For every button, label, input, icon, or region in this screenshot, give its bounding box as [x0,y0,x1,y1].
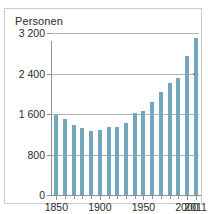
bar [63,119,67,195]
bar [107,127,111,195]
y-tick-mark-800 [47,155,51,156]
x-tick-mark-major-2000 [187,195,188,200]
x-tick-mark [152,195,153,199]
chart-figure: Personen 08001 6002 4003 200 18501900195… [4,8,202,204]
y-tick-mark-3200 [47,33,51,34]
y-tick-mark-1600 [47,114,51,115]
x-tick-mark-major-1900 [100,195,101,200]
x-tick-mark-major-1950 [143,195,144,200]
bar [98,130,102,195]
bar [159,92,163,195]
bar [176,78,180,195]
bar [80,128,84,195]
bar [141,111,145,195]
x-tick-mark-major-1850 [56,195,57,200]
x-tick-mark [126,195,127,199]
bar [89,131,93,195]
y-axis-tick-labels: 08001 6002 4003 200 [5,33,45,195]
y-tick-mark-0 [47,195,51,196]
bar [185,56,189,195]
bar [150,102,154,195]
x-tick-label-2011: 2011 [184,201,207,213]
x-tick-mark [65,195,66,199]
x-tick-mark [178,195,179,199]
bar [168,83,172,195]
y-tick-label-2400: 2 400 [19,68,45,80]
x-tick-mark-major-2011 [196,195,197,200]
y-tick-label-800: 800 [27,149,45,161]
x-tick-mark [74,195,75,199]
bar [194,38,198,195]
annotation-dot [193,73,195,75]
x-tick-label-1950: 1950 [132,201,155,213]
x-tick-mark [91,195,92,199]
x-tick-label-1900: 1900 [88,201,111,213]
y-tick-label-1600: 1 600 [19,108,45,120]
x-tick-mark [109,195,110,199]
bar [72,125,76,195]
bar [124,123,128,195]
bar [54,115,58,195]
y-tick-label-3200: 3 200 [19,27,45,39]
y-tick-mark-2400 [47,74,51,75]
bar-series [52,33,200,195]
bar [133,113,137,195]
y-axis-label: Personen [15,15,63,27]
x-tick-label-1850: 1850 [45,201,68,213]
y-tick-label-0: 0 [39,189,45,201]
x-tick-mark [135,195,136,199]
x-tick-mark [170,195,171,199]
bar [115,127,119,195]
x-tick-mark [82,195,83,199]
x-tick-mark [117,195,118,199]
x-tick-mark [161,195,162,199]
